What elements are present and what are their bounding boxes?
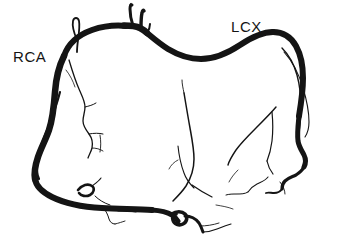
label-lcx: LCX — [231, 19, 262, 34]
label-rca: RCA — [13, 49, 46, 64]
vessel-tree-illustration — [0, 0, 340, 244]
coronary-artery-figure: RCA LCX — [0, 0, 340, 244]
